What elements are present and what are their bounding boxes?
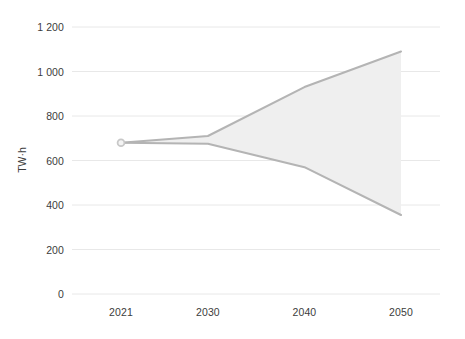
y-axis-title: TW·h	[16, 147, 28, 173]
chart-plot-area	[0, 0, 465, 339]
y-axis-tick-label: 0	[20, 288, 64, 300]
x-axis-tick-label: 2030	[196, 306, 220, 318]
y-axis-tick-label: 400	[20, 199, 64, 211]
data-point-marker	[118, 139, 125, 146]
y-axis-tick-label: 800	[20, 110, 64, 122]
y-axis-tick-label: 1 200	[20, 21, 64, 33]
x-axis-tick-label: 2050	[389, 306, 413, 318]
x-axis-tick-label: 2021	[109, 306, 133, 318]
x-axis-tick-label: 2040	[293, 306, 317, 318]
y-axis-tick-label: 200	[20, 244, 64, 256]
projection-band-area	[121, 51, 401, 215]
y-axis-tick-label: 1 000	[20, 66, 64, 78]
chart-container: 02004006008001 0001 200 2021203020402050…	[0, 0, 465, 339]
data-point-marker-group	[118, 139, 125, 146]
